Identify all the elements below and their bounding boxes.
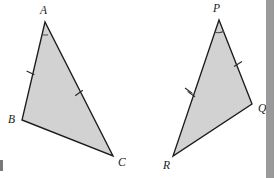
geometry-figure: A B C P Q R [0, 0, 277, 178]
triangle-abc-group: A B C [8, 4, 126, 168]
triangle-abc-shape [22, 22, 113, 156]
triangle-pqr-group: P Q R [162, 2, 267, 171]
figure-canvas: A B C P Q R [0, 0, 277, 178]
right-edge-bar [266, 0, 274, 178]
vertex-label-p: P [212, 2, 220, 14]
vertex-label-b: B [8, 113, 15, 125]
bottom-left-corner-mark [0, 160, 3, 171]
angle-arc-a [42, 34, 48, 35]
vertex-label-c: C [118, 156, 126, 168]
vertex-label-r: R [162, 159, 170, 171]
triangle-pqr-shape [173, 20, 252, 156]
vertex-label-a: A [39, 4, 48, 16]
